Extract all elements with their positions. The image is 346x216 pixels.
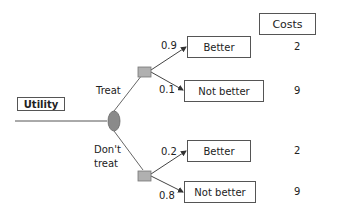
probability-label: 0.9	[161, 40, 177, 52]
branch-label-treat: Treat	[96, 85, 121, 97]
branch-label-dont-treat-1: Don't	[94, 144, 121, 156]
cost-value: 2	[294, 41, 300, 53]
probability-label: 0.1	[159, 84, 175, 96]
outcome-box: Not better	[184, 181, 256, 203]
outcome-box: Better	[187, 140, 251, 162]
decision-node	[108, 111, 120, 131]
chance-node-dont-treat	[138, 171, 151, 181]
cost-value: 9	[294, 85, 300, 97]
cost-value: 9	[294, 186, 300, 198]
branch-label-dont-treat-2: treat	[94, 158, 118, 170]
utility-box: Utility	[17, 97, 65, 111]
outcome-box: Not better	[184, 80, 264, 102]
cost-value: 2	[294, 145, 300, 157]
chance-node-treat	[138, 67, 151, 77]
outcome-box: Better	[187, 36, 251, 58]
probability-label: 0.2	[161, 146, 177, 158]
probability-label: 0.8	[159, 190, 175, 202]
costs-header: Costs	[259, 13, 316, 35]
